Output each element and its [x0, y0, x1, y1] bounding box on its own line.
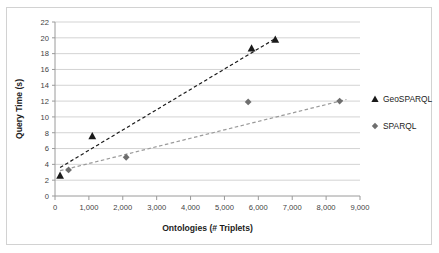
legend-triangle-icon — [371, 95, 378, 102]
scatter-chart: 024681012141618202201,0002,0003,0004,000… — [0, 0, 439, 253]
x-tick-label: 7,000 — [283, 203, 302, 212]
x-tick-label: 3,000 — [147, 203, 166, 212]
x-tick-label: 8,000 — [317, 203, 336, 212]
y-tick-label: 8 — [45, 129, 49, 138]
data-point-geosparql — [271, 36, 279, 43]
x-tick-label: 9,000 — [350, 203, 369, 212]
legend-diamond-icon — [372, 123, 378, 129]
x-tick-label: 4,000 — [181, 203, 200, 212]
y-tick-label: 20 — [41, 34, 49, 43]
data-point-geosparql — [248, 44, 256, 51]
y-tick-label: 6 — [45, 144, 49, 153]
y-axis-title: Query Time (s) — [14, 79, 24, 139]
data-point-sparql — [123, 154, 130, 161]
x-tick-label: 5,000 — [215, 203, 234, 212]
y-tick-label: 14 — [41, 81, 49, 90]
y-tick-label: 16 — [41, 65, 49, 74]
y-tick-label: 10 — [41, 113, 49, 122]
y-tick-label: 22 — [41, 18, 49, 27]
x-tick-label: 1,000 — [79, 203, 98, 212]
y-tick-label: 0 — [45, 192, 49, 201]
trendline-sparql — [60, 100, 346, 171]
y-tick-label: 4 — [45, 160, 49, 169]
data-point-sparql — [336, 98, 343, 105]
x-tick-label: 6,000 — [249, 203, 268, 212]
y-tick-label: 18 — [41, 49, 49, 58]
data-point-geosparql — [56, 172, 64, 179]
x-tick-label: 2,000 — [113, 203, 132, 212]
chart-figure: 024681012141618202201,0002,0003,0004,000… — [0, 0, 439, 253]
x-tick-label: 0 — [53, 203, 57, 212]
data-point-sparql — [245, 98, 252, 105]
y-tick-label: 2 — [45, 176, 49, 185]
y-tick-label: 12 — [41, 97, 49, 106]
data-point-sparql — [65, 167, 72, 174]
x-axis-title: Ontologies (# Triplets) — [162, 223, 253, 233]
legend-label-sparql: SPARQL — [383, 121, 417, 131]
legend-label-geosparql: GeoSPARQL — [383, 94, 433, 104]
